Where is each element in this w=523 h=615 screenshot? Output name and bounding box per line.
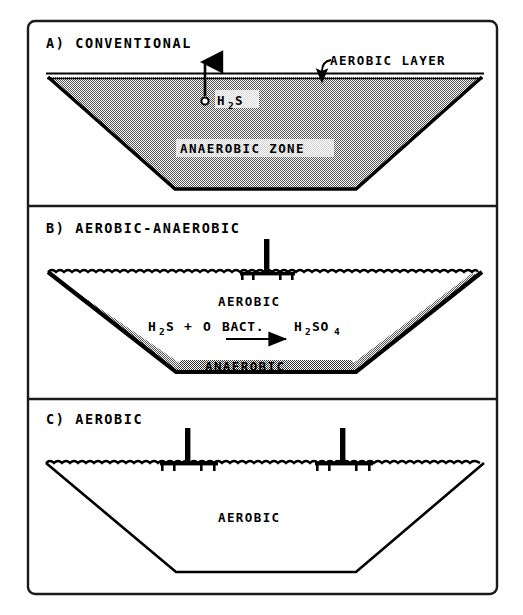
aerator-prong: [279, 272, 282, 280]
panel-a-h2s-label: H 2 S: [215, 90, 259, 111]
h2s-label-sub: 2: [228, 100, 235, 111]
eq-product-sub: 2: [305, 326, 312, 337]
aerator-prong: [355, 462, 358, 471]
aerator-prong: [252, 272, 255, 280]
aerator-post: [185, 428, 190, 465]
eq-catalyst: BACT.: [222, 319, 264, 334]
aerator-prong: [200, 462, 203, 471]
anaerobic-zone-text: ANAEROBIC ZONE: [180, 141, 305, 156]
panel-c-label: C) AEROBIC: [46, 411, 143, 427]
panel-b-label: B) AEROBIC-ANAEROBIC: [46, 220, 241, 236]
eq-product-h: H: [294, 319, 302, 334]
aerator-post: [340, 428, 345, 465]
eq-h2s-h: H: [148, 319, 156, 334]
aerator-prong: [368, 462, 371, 471]
aerobic-layer-callout-text: AEROBIC LAYER: [330, 53, 446, 68]
h2s-gas-bubble-icon: [201, 97, 208, 104]
h2s-label-h: H: [217, 93, 226, 108]
aerator-prong: [213, 462, 216, 471]
eq-h2s-sub: 2: [159, 326, 166, 337]
panel-a-anaerobic-zone-label: ANAEROBIC ZONE: [176, 139, 334, 157]
panel-c-water-surface: [46, 461, 480, 463]
eq-product-sub2: 4: [334, 326, 341, 337]
panel-b-anaerobic-text: ANAEROBIC: [205, 359, 285, 374]
h2s-label-s: S: [235, 93, 244, 108]
aerator-prong: [161, 462, 164, 471]
eq-oxygen: O: [203, 319, 211, 334]
eq-h2s-s: S: [166, 319, 174, 334]
panel-c-aerobic-text: AEROBIC: [218, 510, 280, 525]
aerator-prong: [173, 462, 176, 471]
aerator-prong: [328, 462, 331, 471]
aerator-prong: [291, 272, 294, 280]
panel-b-aerobic-text: AEROBIC: [218, 294, 280, 309]
lagoon-diagram-figure: H 2 S AEROBIC LAYER ANAEROBIC ZONE A) CO…: [0, 0, 523, 615]
aerator-post: [264, 239, 269, 275]
eq-plus: +: [184, 319, 192, 334]
eq-product-so: SO: [312, 319, 329, 334]
aerator-prong: [241, 272, 244, 280]
panel-a-label: A) CONVENTIONAL: [46, 35, 192, 51]
aerator-prong: [316, 462, 319, 471]
diagram-canvas: H 2 S AEROBIC LAYER ANAEROBIC ZONE A) CO…: [0, 0, 523, 615]
